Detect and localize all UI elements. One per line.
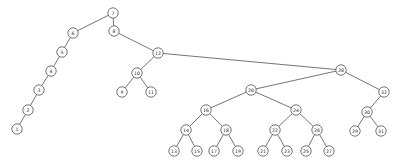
tree-edge-14-13 bbox=[177, 135, 184, 147]
tree-node-29[interactable]: 29 bbox=[350, 126, 360, 136]
tree-edge-18-19 bbox=[229, 135, 236, 147]
tree-node-22[interactable]: 22 bbox=[270, 125, 280, 135]
tree-node-14[interactable]: 14 bbox=[181, 125, 191, 135]
tree-node-20[interactable]: 20 bbox=[246, 85, 256, 95]
tree-node-circle-12[interactable] bbox=[153, 48, 163, 58]
tree-edge-28-32 bbox=[346, 72, 380, 89]
tree-node-10[interactable]: 10 bbox=[132, 68, 142, 78]
tree-node-circle-19[interactable] bbox=[233, 146, 243, 156]
tree-edge-24-26 bbox=[300, 114, 313, 127]
tree-edge-28-20 bbox=[256, 71, 336, 89]
tree-node-circle-1[interactable] bbox=[12, 124, 22, 134]
tree-edge-14-15 bbox=[188, 135, 194, 147]
tree-edge-16-14 bbox=[190, 114, 203, 127]
tree-node-circle-17[interactable] bbox=[209, 146, 219, 156]
tree-node-circle-3[interactable] bbox=[34, 85, 44, 95]
tree-edge-26-25 bbox=[308, 135, 314, 147]
tree-node-12[interactable]: 12 bbox=[153, 48, 163, 58]
tree-edge-10-9 bbox=[125, 77, 134, 88]
tree-node-27[interactable]: 27 bbox=[324, 146, 334, 156]
tree-edge-22-23 bbox=[278, 135, 285, 147]
tree-node-circle-22[interactable] bbox=[270, 125, 280, 135]
tree-node-31[interactable]: 31 bbox=[376, 126, 386, 136]
tree-node-6[interactable]: 6 bbox=[68, 28, 78, 38]
tree-node-4[interactable]: 4 bbox=[46, 66, 56, 76]
tree-node-circle-2[interactable] bbox=[23, 105, 33, 115]
tree-node-circle-26[interactable] bbox=[312, 125, 322, 135]
tree-node-21[interactable]: 21 bbox=[258, 146, 268, 156]
tree-node-32[interactable]: 32 bbox=[379, 87, 389, 97]
tree-edge-22-21 bbox=[266, 135, 273, 147]
tree-edge-12-28 bbox=[163, 53, 336, 69]
tree-node-circle-14[interactable] bbox=[181, 125, 191, 135]
tree-node-circle-16[interactable] bbox=[201, 105, 211, 115]
tree-node-2[interactable]: 2 bbox=[23, 105, 33, 115]
tree-edge-6-5 bbox=[65, 38, 71, 48]
tree-edge-32-30 bbox=[370, 96, 380, 108]
tree-node-circle-13[interactable] bbox=[169, 146, 179, 156]
tree-node-3[interactable]: 3 bbox=[34, 85, 44, 95]
tree-node-16[interactable]: 16 bbox=[201, 105, 211, 115]
tree-edge-10-11 bbox=[140, 77, 148, 88]
tree-node-circle-30[interactable] bbox=[362, 107, 372, 117]
tree-edge-8-12 bbox=[119, 33, 154, 50]
tree-edge-5-4 bbox=[54, 57, 60, 67]
tree-node-circle-32[interactable] bbox=[379, 87, 389, 97]
tree-edge-18-17 bbox=[217, 135, 224, 147]
tree-edge-20-16 bbox=[211, 92, 246, 108]
tree-node-9[interactable]: 9 bbox=[117, 87, 127, 97]
tree-node-circle-29[interactable] bbox=[350, 126, 360, 136]
tree-node-5[interactable]: 5 bbox=[57, 47, 67, 57]
tree-edge-12-10 bbox=[141, 57, 154, 70]
tree-node-circle-9[interactable] bbox=[117, 87, 127, 97]
tree-node-circle-10[interactable] bbox=[132, 68, 142, 78]
tree-node-25[interactable]: 25 bbox=[301, 146, 311, 156]
tree-diagram-svg: 7654321812109112820323029311624141822261… bbox=[0, 0, 405, 168]
tree-node-circle-7[interactable] bbox=[108, 8, 118, 18]
tree-edge-20-24 bbox=[256, 92, 291, 108]
tree-node-19[interactable]: 19 bbox=[233, 146, 243, 156]
tree-node-circle-15[interactable] bbox=[192, 146, 202, 156]
tree-node-circle-4[interactable] bbox=[46, 66, 56, 76]
tree-node-11[interactable]: 11 bbox=[146, 87, 156, 97]
tree-node-28[interactable]: 28 bbox=[336, 65, 346, 75]
tree-node-circle-27[interactable] bbox=[324, 146, 334, 156]
tree-node-24[interactable]: 24 bbox=[291, 105, 301, 115]
tree-node-circle-23[interactable] bbox=[282, 146, 292, 156]
tree-node-7[interactable]: 7 bbox=[108, 8, 118, 18]
tree-edge-7-6 bbox=[78, 15, 109, 30]
tree-node-circle-24[interactable] bbox=[291, 105, 301, 115]
tree-edge-4-3 bbox=[42, 75, 48, 85]
tree-node-circle-20[interactable] bbox=[246, 85, 256, 95]
tree-node-23[interactable]: 23 bbox=[282, 146, 292, 156]
tree-edge-24-22 bbox=[279, 114, 292, 127]
tree-node-circle-21[interactable] bbox=[258, 146, 268, 156]
tree-edge-30-31 bbox=[370, 116, 378, 127]
tree-node-17[interactable]: 17 bbox=[209, 146, 219, 156]
tree-node-1[interactable]: 1 bbox=[12, 124, 22, 134]
tree-node-13[interactable]: 13 bbox=[169, 146, 179, 156]
tree-node-circle-6[interactable] bbox=[68, 28, 78, 38]
tree-node-circle-28[interactable] bbox=[336, 65, 346, 75]
tree-edge-3-2 bbox=[31, 95, 37, 106]
tree-node-circle-8[interactable] bbox=[109, 26, 119, 36]
tree-node-circle-5[interactable] bbox=[57, 47, 67, 57]
tree-node-8[interactable]: 8 bbox=[109, 26, 119, 36]
tree-diagram-canvas: 7654321812109112820323029311624141822261… bbox=[0, 0, 405, 168]
tree-node-circle-31[interactable] bbox=[376, 126, 386, 136]
tree-edge-2-1 bbox=[20, 115, 26, 125]
tree-node-30[interactable]: 30 bbox=[362, 107, 372, 117]
tree-node-circle-11[interactable] bbox=[146, 87, 156, 97]
tree-node-15[interactable]: 15 bbox=[192, 146, 202, 156]
tree-node-circle-25[interactable] bbox=[301, 146, 311, 156]
tree-edge-16-18 bbox=[210, 114, 223, 127]
tree-edge-26-27 bbox=[320, 135, 327, 147]
tree-node-circle-18[interactable] bbox=[221, 125, 231, 135]
tree-node-18[interactable]: 18 bbox=[221, 125, 231, 135]
tree-edge-30-29 bbox=[358, 116, 364, 126]
node-layer: 7654321812109112820323029311624141822261… bbox=[12, 8, 389, 156]
tree-node-26[interactable]: 26 bbox=[312, 125, 322, 135]
